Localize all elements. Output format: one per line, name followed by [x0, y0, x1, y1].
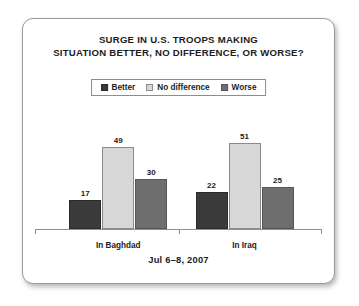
- bar-in-baghdad-better: 17: [69, 117, 101, 229]
- legend-label-worse: Worse: [232, 83, 257, 92]
- legend-swatch-no-difference-icon: [146, 84, 153, 91]
- chart-footer-date: Jul 6–8, 2007: [23, 254, 334, 265]
- category-label-in-iraq: In Iraq: [187, 241, 302, 250]
- chart-title-line-2: SITUATION BETTER, NO DIFFERENCE, OR WORS…: [23, 47, 334, 60]
- x-axis-category-labels: In Baghdad In Iraq: [35, 241, 322, 255]
- bar-value-label: 30: [147, 168, 156, 177]
- bar-group-in-baghdad: 17 49 30: [61, 117, 176, 229]
- x-axis-tick-left: [35, 229, 36, 234]
- legend-label-no-difference: No difference: [157, 83, 209, 92]
- chart-card: SURGE IN U.S. TROOPS MAKING SITUATION BE…: [22, 18, 335, 284]
- bar-in-baghdad-no-difference: 49: [102, 117, 134, 229]
- chart-legend: Better No difference Worse: [91, 79, 267, 96]
- bar-rect: [102, 147, 134, 229]
- category-label-in-baghdad: In Baghdad: [61, 241, 176, 250]
- bar-rect: [196, 192, 228, 229]
- chart-title: SURGE IN U.S. TROOPS MAKING SITUATION BE…: [23, 34, 334, 59]
- bar-rect: [229, 143, 261, 229]
- legend-item-no-difference: No difference: [146, 83, 209, 92]
- bar-value-label: 17: [81, 189, 90, 198]
- bar-in-baghdad-worse: 30: [135, 117, 167, 229]
- x-axis-tick-middle: [179, 229, 180, 234]
- bar-in-iraq-better: 22: [196, 117, 228, 229]
- bar-in-iraq-worse: 25: [262, 117, 294, 229]
- legend-label-better: Better: [112, 83, 136, 92]
- bar-rect: [262, 187, 294, 229]
- x-axis-tick-right: [321, 229, 322, 234]
- legend-item-worse: Worse: [221, 83, 257, 92]
- bar-group-in-iraq: 22 51 25: [187, 117, 302, 229]
- bar-value-label: 22: [207, 181, 216, 190]
- plot-area: 17 49 30 22 51 25: [35, 117, 322, 229]
- legend-swatch-worse-icon: [221, 84, 228, 91]
- bar-value-label: 51: [240, 132, 249, 141]
- legend-swatch-better-icon: [101, 84, 108, 91]
- bar-rect: [69, 200, 101, 229]
- bar-rect: [135, 179, 167, 230]
- bar-value-label: 49: [114, 136, 123, 145]
- x-axis: [35, 229, 322, 235]
- legend-item-better: Better: [101, 83, 136, 92]
- chart-title-line-1: SURGE IN U.S. TROOPS MAKING: [23, 34, 334, 47]
- bar-value-label: 25: [273, 176, 282, 185]
- bar-in-iraq-no-difference: 51: [229, 117, 261, 229]
